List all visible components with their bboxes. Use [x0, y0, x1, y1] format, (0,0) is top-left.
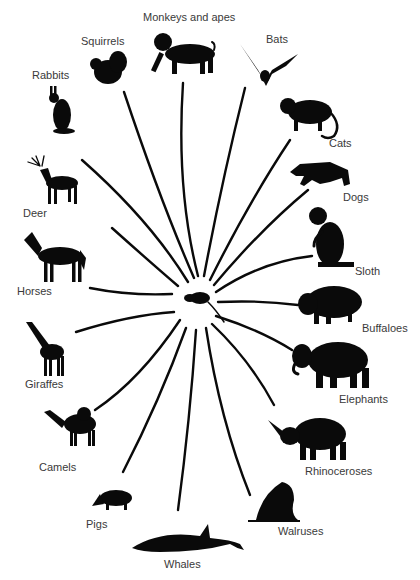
- deer-icon: [28, 156, 78, 204]
- horse-icon: [24, 232, 86, 282]
- buffalo-icon: [298, 286, 362, 324]
- squirrel-icon: [90, 51, 127, 84]
- label-monkeys: Monkeys and apes: [143, 11, 235, 23]
- label-cats: Cats: [329, 137, 352, 149]
- walrus-icon: [248, 482, 300, 522]
- branch-whales: [178, 330, 196, 510]
- cat-icon: [280, 98, 337, 138]
- label-deer: Deer: [23, 207, 47, 219]
- label-sloth: Sloth: [355, 265, 380, 277]
- camel-icon: [44, 407, 96, 446]
- monkey-icon: [151, 33, 215, 74]
- label-elephants: Elephants: [339, 393, 388, 405]
- branch-elephants: [216, 316, 292, 350]
- branch-rabbits: [82, 160, 188, 282]
- rhinoceros-icon: [268, 418, 346, 460]
- branch-camels: [95, 320, 180, 410]
- branch-deer: [112, 228, 178, 286]
- branch-walruses: [206, 328, 250, 495]
- sloth-icon: [309, 207, 354, 267]
- branch-horses: [90, 288, 172, 294]
- branch-monkeys: [181, 83, 198, 276]
- label-squirrels: Squirrels: [81, 35, 124, 47]
- dog-icon: [290, 162, 350, 186]
- label-buffaloes: Buffaloes: [362, 322, 408, 334]
- branch-pigs: [123, 328, 186, 472]
- branch-giraffes: [76, 312, 174, 332]
- diagram-canvas: [0, 0, 420, 580]
- label-rabbits: Rabbits: [32, 69, 69, 81]
- branch-sloth: [216, 256, 312, 292]
- pig-icon: [92, 490, 132, 510]
- label-camels: Camels: [39, 461, 76, 473]
- branch-dogs: [214, 190, 308, 285]
- label-dogs: Dogs: [343, 191, 369, 203]
- whale-icon: [132, 524, 244, 552]
- label-giraffes: Giraffes: [25, 378, 63, 390]
- adaptive-radiation-diagram: Monkeys and apes Squirrels Bats Rabbits …: [0, 0, 420, 580]
- branch-buffaloes: [218, 301, 298, 305]
- label-bats: Bats: [266, 33, 288, 45]
- rabbit-icon: [49, 86, 75, 134]
- giraffe-icon: [26, 322, 64, 376]
- label-horses: Horses: [17, 285, 52, 297]
- branch-bats: [204, 88, 245, 276]
- bat-icon: [240, 44, 298, 86]
- elephant-icon: [292, 342, 369, 388]
- branch-cats: [210, 140, 290, 280]
- label-walruses: Walruses: [278, 525, 323, 537]
- label-whales: Whales: [164, 558, 201, 570]
- label-rhinoceroses: Rhinoceroses: [305, 465, 372, 477]
- label-pigs: Pigs: [86, 518, 107, 530]
